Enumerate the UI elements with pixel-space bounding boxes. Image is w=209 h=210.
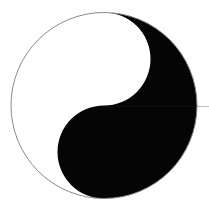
taijitu-symbol (0, 0, 209, 210)
image-canvas: Taijitu (Yin-Yang Symbol) (0, 0, 209, 210)
